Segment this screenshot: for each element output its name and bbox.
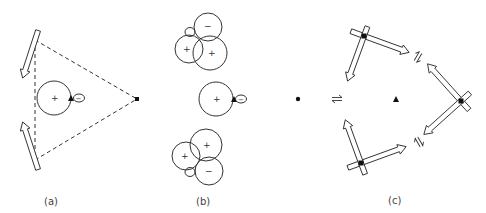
equilibrium-symbol-top-right xyxy=(412,51,424,64)
sign-top-plus-left: + xyxy=(183,44,191,54)
orbital-cluster-bottom xyxy=(172,129,223,185)
sign-top-plus-right: + xyxy=(208,48,216,58)
displacement-node-right xyxy=(420,60,473,138)
sign-middle-plus: + xyxy=(213,94,221,104)
sign-bottom-plus-left: + xyxy=(181,151,189,161)
panel-label-c: (c) xyxy=(388,195,401,206)
figure-canvas: + − (a) − + + + − xyxy=(0,0,486,213)
atom-right xyxy=(135,97,139,101)
displacement-node-top xyxy=(343,25,411,83)
displacement-node-bottom xyxy=(341,118,408,176)
panel-label-a: (a) xyxy=(44,196,58,207)
dot-marker xyxy=(296,97,300,101)
panel-label-b: (b) xyxy=(196,196,210,207)
sign-bottom-minus: − xyxy=(205,166,213,176)
displacement-arrow-top xyxy=(18,29,43,80)
displacement-arrow-bottom xyxy=(18,120,43,171)
orbital-sign-minus: − xyxy=(76,95,82,103)
equilibrium-symbol-bottom-right xyxy=(413,136,425,149)
triangle-marker-center xyxy=(393,96,399,102)
orbital-sign-plus: + xyxy=(51,93,59,103)
panel-b: − + + + − + + − (b) xyxy=(172,13,247,207)
orbital-a: + − xyxy=(37,81,85,115)
equilibrium-symbol-left xyxy=(332,95,342,103)
sign-bottom-plus-right: + xyxy=(203,140,211,150)
panel-c: (c) xyxy=(296,25,473,206)
panel-a: + − (a) xyxy=(18,29,139,207)
sign-top-minus: − xyxy=(204,21,212,31)
orbital-cluster-top xyxy=(175,13,227,70)
sign-middle-minus: − xyxy=(238,96,244,104)
